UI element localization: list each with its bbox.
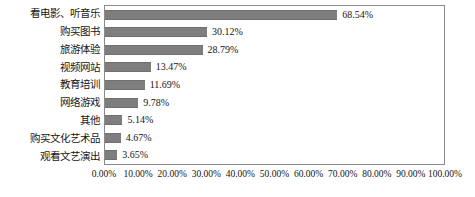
x-tick-label: 40.00%	[226, 168, 255, 180]
category-axis: 看电影、听音乐购买图书旅游体验视频网站教育培训网络游戏其他购买文化艺术品观看文艺…	[0, 5, 103, 165]
x-tick-label: 30.00%	[192, 168, 221, 180]
x-tick-label: 70.00%	[328, 168, 357, 180]
x-tick-label: 0.00%	[92, 168, 117, 180]
x-tick-label: 60.00%	[294, 168, 323, 180]
x-tick-label: 50.00%	[260, 168, 289, 180]
x-axis: 0.00%10.00%20.00%30.00%40.00%50.00%60.00…	[104, 168, 445, 184]
category-label: 视频网站	[60, 62, 103, 73]
category-label: 观看文艺演出	[40, 151, 103, 162]
category-label: 教育培训	[60, 79, 103, 90]
bar-row: 30.12%	[105, 27, 444, 37]
bar-row: 3.65%	[105, 150, 444, 160]
bar-row: 13.47%	[105, 62, 444, 72]
bar-row: 5.14%	[105, 115, 444, 125]
bar-value-label: 13.47%	[156, 62, 187, 72]
category-label: 其他	[80, 115, 103, 126]
bar-row: 4.67%	[105, 133, 444, 143]
bar-value-label: 3.65%	[122, 150, 148, 160]
bar	[105, 133, 121, 143]
category-label: 购买图书	[60, 26, 103, 37]
bar	[105, 62, 151, 72]
bar-row: 68.54%	[105, 10, 444, 20]
bar	[105, 80, 145, 90]
x-tick-label: 20.00%	[158, 168, 187, 180]
x-tick-label: 10.00%	[123, 168, 152, 180]
plot-area: 68.54%30.12%28.79%13.47%11.69%9.78%5.14%…	[104, 5, 445, 165]
category-label: 旅游体验	[60, 44, 103, 55]
bar	[105, 115, 122, 125]
horizontal-bar-chart: 看电影、听音乐购买图书旅游体验视频网站教育培训网络游戏其他购买文化艺术品观看文艺…	[0, 0, 475, 197]
category-label: 网络游戏	[60, 97, 103, 108]
bar	[105, 150, 117, 160]
bar-value-label: 68.54%	[342, 10, 373, 20]
bar-value-label: 30.12%	[212, 27, 243, 37]
bar-value-label: 4.67%	[126, 133, 152, 143]
x-tick-label: 90.00%	[396, 168, 425, 180]
category-label: 购买文化艺术品	[30, 133, 103, 144]
bar-value-label: 11.69%	[150, 80, 180, 90]
category-label: 看电影、听音乐	[30, 8, 103, 19]
bar-row: 28.79%	[105, 45, 444, 55]
bar	[105, 98, 138, 108]
bar-row: 11.69%	[105, 80, 444, 90]
bar-value-label: 28.79%	[208, 45, 239, 55]
x-tick-label: 100.00%	[428, 168, 462, 180]
bars-layer: 68.54%30.12%28.79%13.47%11.69%9.78%5.14%…	[105, 6, 444, 164]
bar-value-label: 9.78%	[143, 98, 169, 108]
bar-value-label: 5.14%	[127, 115, 153, 125]
bar-row: 9.78%	[105, 98, 444, 108]
bar	[105, 45, 203, 55]
bar	[105, 10, 337, 20]
bar	[105, 27, 207, 37]
x-tick-label: 80.00%	[362, 168, 391, 180]
